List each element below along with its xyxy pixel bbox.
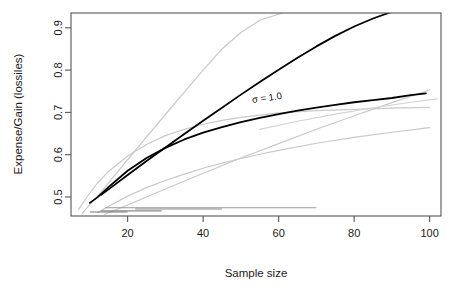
x-tick-label: 20	[122, 227, 134, 239]
x-tick-label: 100	[420, 227, 438, 239]
y-tick-label: 0.5	[52, 189, 64, 204]
y-tick-label: 0.7	[52, 105, 64, 120]
y-axis-label: Expense/Gain (lossiles)	[12, 53, 24, 174]
x-tick-label: 80	[348, 227, 360, 239]
x-tick-label: 60	[273, 227, 285, 239]
y-tick-label: 0.8	[52, 62, 64, 77]
y-tick-label: 0.6	[52, 147, 64, 162]
x-tick-label: 40	[197, 227, 209, 239]
chart-figure: 0.50.60.70.80.9 20406080100 σ = 1.0 Expe…	[0, 0, 459, 288]
y-tick-label: 0.9	[52, 20, 64, 35]
plot-canvas: 0.50.60.70.80.9 20406080100 σ = 1.0 Expe…	[0, 0, 459, 288]
x-axis-label: Sample size	[225, 267, 288, 279]
